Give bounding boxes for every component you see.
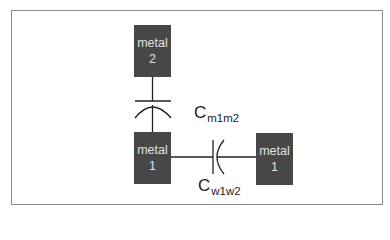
cap-w1w2-base: C [198,176,210,195]
cap-w1w2-subscript: w1w2 [211,185,240,197]
metal2-label-line1: metal [134,35,171,51]
cap-m1m2-label: Cm1m2 [194,104,239,125]
cap-w1w2-label: Cw1w2 [198,177,241,198]
metal1-left-label-line1: metal [134,142,171,158]
metal1-right-box: metal 1 [256,133,293,185]
metal1-left-label-line2: 1 [134,158,171,174]
metal1-left-box: metal 1 [134,132,171,184]
cap-m1m2-subscript: m1m2 [207,112,239,124]
cap-m1m2-base: C [194,103,206,122]
metal1-right-label-line1: metal [256,143,293,159]
metal1-right-label-line2: 1 [256,159,293,175]
metal2-box: metal 2 [134,25,171,77]
metal2-label-line2: 2 [134,51,171,67]
